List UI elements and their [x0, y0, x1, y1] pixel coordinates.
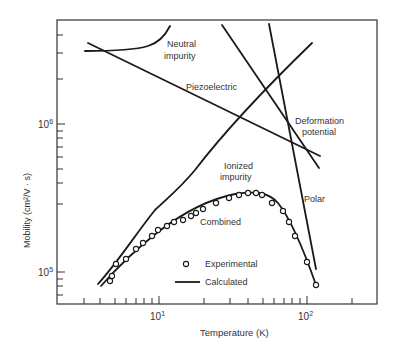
label-ionized-1: Ionized [224, 161, 253, 171]
label-deformation-2: potential [302, 127, 336, 137]
x-tick-label-1e2: 102 [298, 310, 313, 322]
y-axis-ticks [57, 35, 65, 295]
label-ionized-2: impurity [220, 172, 252, 182]
label-neutral-impurity-1: Neutral [167, 39, 196, 49]
x-axis-ticks [84, 296, 352, 304]
deformation-potential-curve [222, 25, 319, 168]
x-axis-title: Temperature (K) [200, 327, 269, 338]
label-combined: Combined [200, 217, 241, 227]
mobility-vs-temperature-chart: 106 105 101 102 Temperature (K) Mobility… [0, 0, 394, 348]
legend-experimental-marker [183, 261, 188, 266]
label-piezoelectric: Piezoelectric [186, 82, 238, 92]
polar-curve [269, 24, 316, 269]
label-polar: Polar [304, 194, 325, 204]
piezoelectric-curve [88, 43, 320, 156]
y-tick-label-1e5: 105 [38, 266, 53, 278]
label-deformation-1: Deformation [295, 116, 344, 126]
y-tick-label-1e6: 106 [38, 118, 53, 130]
legend-experimental-label: Experimental [205, 259, 258, 269]
x-tick-label-1e1: 101 [150, 310, 165, 322]
y-axis-title: Mobility (cm²/V · s) [22, 173, 32, 248]
experimental-points [107, 190, 318, 287]
legend: Experimental Calculated [175, 259, 258, 287]
label-neutral-impurity-2: impurity [164, 51, 196, 61]
legend-calculated-label: Calculated [205, 277, 248, 287]
